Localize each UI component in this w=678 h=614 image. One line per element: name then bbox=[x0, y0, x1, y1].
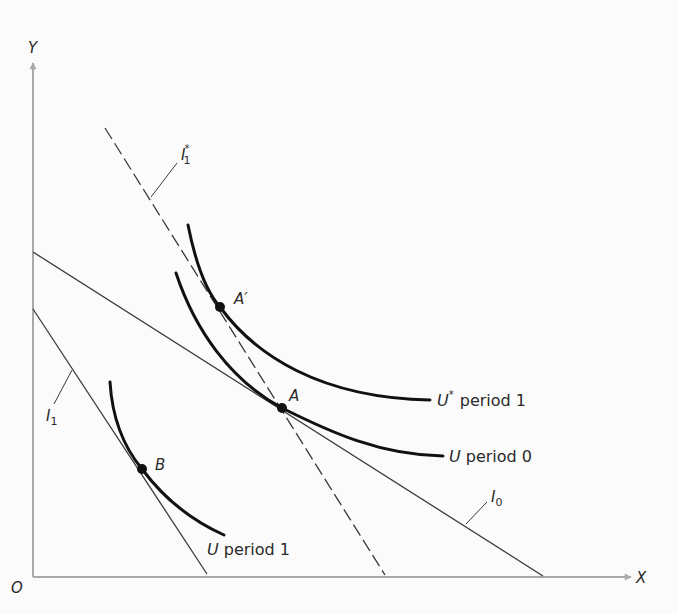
label-point-b: B bbox=[155, 456, 165, 474]
budget-line-i1 bbox=[33, 309, 207, 574]
indifference-curves bbox=[110, 225, 443, 535]
point-a-prime bbox=[215, 302, 225, 312]
label-i1-star: I*1 bbox=[181, 143, 190, 167]
axes: Y X O bbox=[11, 39, 647, 597]
leader-i0 bbox=[466, 502, 487, 524]
label-point-a: A bbox=[288, 387, 299, 405]
budget-line-i0 bbox=[33, 252, 543, 576]
label-i1: I1 bbox=[46, 407, 57, 428]
leader-i1 bbox=[54, 370, 72, 404]
curve-labels: U*period 1 Uperiod 0 Uperiod 1 bbox=[207, 389, 532, 559]
label-u-period-1: Uperiod 1 bbox=[207, 540, 290, 559]
budget-lines: I0 I1 I*1 bbox=[33, 128, 543, 576]
x-axis-label: X bbox=[635, 569, 647, 587]
label-u-star-period-1: U*period 1 bbox=[437, 389, 526, 410]
point-a bbox=[277, 403, 287, 413]
economics-diagram: Y X O I0 I1 I*1 U*period 1 Upe bbox=[0, 0, 678, 614]
budget-line-i1-star bbox=[105, 128, 385, 575]
leader-i1-star bbox=[151, 163, 177, 197]
point-b bbox=[137, 464, 147, 474]
y-axis-label: Y bbox=[28, 39, 39, 57]
label-i0: I0 bbox=[491, 488, 502, 509]
points: A A′ B bbox=[137, 290, 299, 474]
origin-label: O bbox=[11, 579, 23, 597]
label-u-period-0: Uperiod 0 bbox=[449, 447, 532, 466]
label-point-a-prime: A′ bbox=[233, 290, 248, 308]
